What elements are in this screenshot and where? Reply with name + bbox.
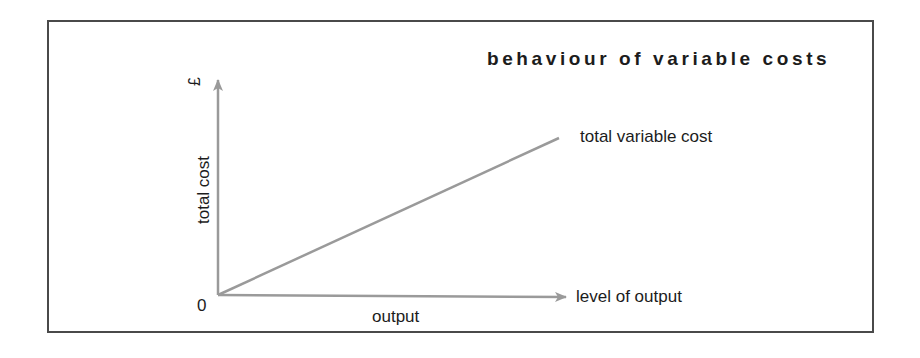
line-label: total variable cost — [580, 127, 712, 147]
x-axis-end-label: level of output — [576, 287, 682, 307]
x-axis — [218, 295, 566, 297]
y-axis-label: total cost — [194, 156, 214, 224]
origin-label: 0 — [197, 296, 206, 316]
currency-symbol: £ — [186, 77, 204, 86]
total-variable-cost-line — [218, 138, 559, 295]
diagram-title: behaviour of variable costs — [487, 48, 830, 70]
x-axis-label: output — [372, 307, 419, 327]
